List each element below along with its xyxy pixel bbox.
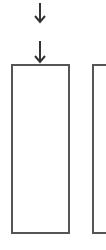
diagram-box xyxy=(11,64,70,234)
arrow-down-icon xyxy=(34,41,46,64)
arrow-down-icon xyxy=(34,3,46,24)
diagram-box xyxy=(92,64,106,234)
